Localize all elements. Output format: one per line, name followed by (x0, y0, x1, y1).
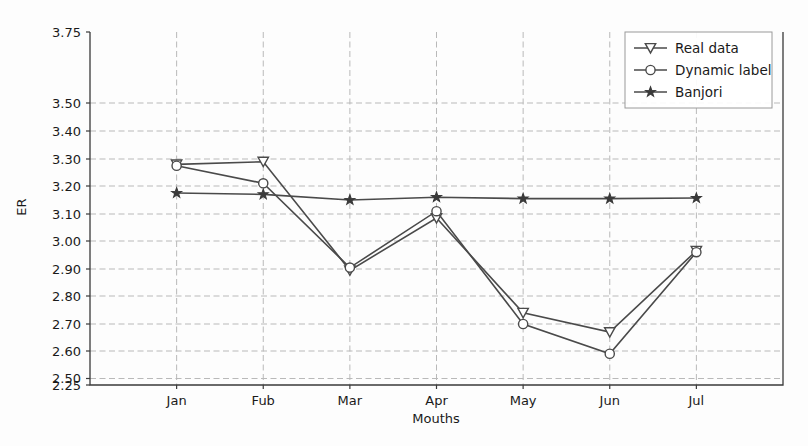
data-point-marker (692, 248, 701, 257)
x-tick-label: Fub (252, 393, 275, 408)
data-point-marker (259, 179, 268, 188)
chart-figure: 3.753.503.403.303.203.103.002.902.802.70… (0, 0, 808, 446)
legend-label: Banjori (675, 84, 722, 100)
y-tick-label: 2.70 (52, 317, 81, 332)
data-point-marker (432, 207, 441, 216)
data-point-marker (345, 195, 355, 204)
data-point-marker (605, 328, 615, 337)
y-axis-title: ER (14, 198, 29, 215)
legend-label: Real data (675, 40, 739, 56)
x-tick-label: Jan (166, 393, 187, 408)
data-point-marker (518, 193, 528, 202)
y-tick-label: 3.40 (52, 124, 81, 139)
legend-marker (646, 65, 655, 74)
chart-legend: Real dataDynamic labelBanjori (625, 32, 772, 108)
x-tick-labels: JanFubMarAprMayJunJul (166, 393, 705, 408)
data-point-marker (519, 319, 528, 328)
axis-tickmarks (86, 32, 696, 389)
data-point-marker (605, 349, 614, 358)
y-tick-label: 3.75 (52, 25, 81, 40)
x-tick-label: Jun (599, 393, 620, 408)
y-tick-label: 3.50 (52, 96, 81, 111)
data-point-marker (605, 193, 615, 202)
x-tick-label: May (510, 393, 537, 408)
data-point-marker (345, 263, 354, 272)
y-tick-label: 3.10 (52, 207, 81, 222)
line-chart-plot: 3.753.503.403.303.203.103.002.902.802.70… (0, 0, 808, 446)
x-tick-label: Mar (338, 393, 363, 408)
y-tick-labels: 3.753.503.403.303.203.103.002.902.802.70… (52, 25, 81, 393)
x-axis-title: Mouths (412, 411, 460, 426)
x-tick-label: Jul (688, 393, 705, 408)
y-tick-label: 3.30 (52, 152, 81, 167)
series-banjori (172, 188, 702, 204)
legend-label: Dynamic label (675, 62, 771, 78)
y-tick-label: 2.80 (52, 289, 81, 304)
y-tick-label: 3.00 (52, 234, 81, 249)
data-point-marker (691, 193, 701, 202)
y-tick-label: 2.25 (52, 378, 81, 393)
y-tick-label: 3.20 (52, 179, 81, 194)
y-tick-label: 2.90 (52, 262, 81, 277)
y-tick-label: 2.60 (52, 344, 81, 359)
data-point-marker (172, 161, 181, 170)
data-point-marker (432, 192, 442, 201)
x-tick-label: Apr (425, 393, 448, 408)
